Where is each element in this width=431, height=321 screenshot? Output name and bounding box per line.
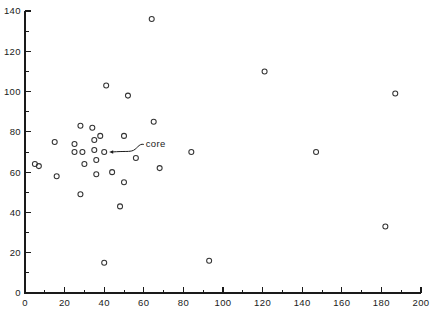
data-points: [32, 17, 397, 266]
y-tick-label-60: 60: [10, 167, 21, 178]
data-point: [72, 150, 77, 155]
core-annotation-label: core: [146, 138, 166, 149]
data-point: [94, 172, 99, 177]
annotations: core: [109, 138, 165, 153]
x-tick-label-80: 80: [178, 297, 189, 308]
data-point: [98, 133, 103, 138]
data-point: [110, 170, 115, 175]
data-point: [383, 224, 388, 229]
data-point: [133, 156, 138, 161]
y-tick-label-40: 40: [10, 207, 21, 218]
data-point: [92, 137, 97, 142]
data-point: [207, 258, 212, 263]
data-point: [118, 204, 123, 209]
x-tick-label-20: 20: [59, 297, 70, 308]
data-point: [314, 150, 319, 155]
data-point: [102, 260, 107, 265]
data-point: [90, 125, 95, 130]
data-point: [72, 141, 77, 146]
data-point: [262, 69, 267, 74]
data-point: [393, 91, 398, 96]
data-point: [52, 139, 57, 144]
data-point: [82, 162, 87, 167]
x-tick-label-60: 60: [138, 297, 149, 308]
data-point: [54, 174, 59, 179]
data-point: [80, 150, 85, 155]
data-point: [78, 123, 83, 128]
scatter-plot-figure: 0204060801001201400204060801001201401601…: [0, 0, 431, 321]
core-leader-line: [112, 144, 144, 152]
data-point: [151, 119, 156, 124]
y-tick-label-100: 100: [4, 86, 21, 97]
x-tick-label-40: 40: [99, 297, 110, 308]
x-tick-label-200: 200: [412, 297, 429, 308]
data-point: [189, 150, 194, 155]
x-tick-label-180: 180: [373, 297, 390, 308]
data-point: [125, 93, 130, 98]
x-tick-label-160: 160: [333, 297, 350, 308]
y-tick-label-20: 20: [10, 247, 21, 258]
y-tick-label-0: 0: [15, 287, 21, 298]
axis-tick-labels: 0204060801001201400204060801001201401601…: [4, 5, 430, 308]
data-point: [157, 166, 162, 171]
data-point: [102, 150, 107, 155]
data-point: [104, 83, 109, 88]
data-point: [94, 158, 99, 163]
y-tick-label-140: 140: [4, 5, 21, 16]
data-point: [122, 180, 127, 185]
x-tick-label-140: 140: [294, 297, 311, 308]
data-point: [78, 192, 83, 197]
x-tick-label-0: 0: [22, 297, 28, 308]
y-tick-label-120: 120: [4, 46, 21, 57]
y-tick-label-80: 80: [10, 126, 21, 137]
x-tick-label-100: 100: [214, 297, 231, 308]
plot-canvas: 0204060801001201400204060801001201401601…: [0, 0, 431, 321]
x-tick-label-120: 120: [254, 297, 271, 308]
data-point: [149, 17, 154, 22]
core-arrowhead: [109, 150, 113, 154]
data-point: [122, 133, 127, 138]
data-point: [92, 147, 97, 152]
